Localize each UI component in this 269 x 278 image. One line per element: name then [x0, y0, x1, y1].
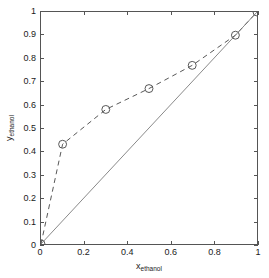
y-tick: [40, 58, 44, 59]
x-axis-label-subscript: ethanol: [141, 265, 162, 272]
x-tick-label: 0.8: [208, 247, 221, 258]
y-tick-right: [254, 11, 258, 12]
y-tick-label: 0.5: [23, 123, 36, 134]
x-tick-label: 0.2: [77, 247, 90, 258]
y-tick-label: 0.7: [23, 76, 36, 87]
series-line-diagonal-reference-line: [41, 12, 257, 244]
x-tick: [258, 241, 259, 245]
y-tick-label: 0.1: [23, 216, 36, 227]
y-tick: [40, 175, 44, 176]
y-axis-label-base: y: [4, 136, 14, 141]
x-tick: [171, 241, 172, 245]
y-tick-label: 0.9: [23, 29, 36, 40]
y-tick-label: 0: [31, 240, 36, 251]
x-tick-label: 0.4: [121, 247, 134, 258]
y-tick: [40, 81, 44, 82]
x-tick: [214, 241, 215, 245]
y-tick-right: [254, 58, 258, 59]
y-tick: [40, 245, 44, 246]
x-tick-top: [84, 11, 85, 15]
y-tick: [40, 198, 44, 199]
y-tick-label: 0.6: [23, 99, 36, 110]
y-tick-label: 1: [31, 6, 36, 17]
y-tick-label: 0.2: [23, 193, 36, 204]
plot-canvas: [41, 12, 257, 244]
y-tick-right: [254, 175, 258, 176]
y-tick-right: [254, 198, 258, 199]
y-tick: [40, 151, 44, 152]
y-tick-label: 0.3: [23, 169, 36, 180]
y-tick-label: 0.8: [23, 52, 36, 63]
y-axis-label-subscript: ethanol: [8, 115, 15, 136]
y-tick-right: [254, 151, 258, 152]
y-tick: [40, 128, 44, 129]
plot-area: [40, 11, 258, 245]
y-tick-right: [254, 81, 258, 82]
x-tick-label: 0: [37, 247, 42, 258]
x-axis-label: xethanol: [136, 261, 162, 271]
x-tick-label: 0.6: [165, 247, 178, 258]
y-tick-right: [254, 34, 258, 35]
x-tick: [127, 241, 128, 245]
y-tick: [40, 34, 44, 35]
x-axis-label-base: x: [136, 261, 141, 271]
x-tick-top: [171, 11, 172, 15]
y-tick: [40, 11, 44, 12]
y-tick: [40, 222, 44, 223]
x-tick-label: 1: [255, 247, 260, 258]
y-tick-right: [254, 105, 258, 106]
y-tick: [40, 105, 44, 106]
vle-chart-figure: 00.20.40.60.8100.10.20.30.40.50.60.70.80…: [0, 0, 269, 278]
y-tick-right: [254, 222, 258, 223]
x-tick-top: [127, 11, 128, 15]
y-tick-label: 0.4: [23, 146, 36, 157]
x-tick: [84, 241, 85, 245]
x-tick-top: [258, 11, 259, 15]
x-tick-top: [214, 11, 215, 15]
data-point-marker: [102, 105, 110, 113]
y-axis-label: yethanol: [4, 115, 14, 141]
y-tick-right: [254, 128, 258, 129]
y-tick-right: [254, 245, 258, 246]
